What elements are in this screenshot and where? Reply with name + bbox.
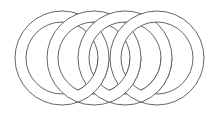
interlocking-rings-figure [0,0,211,116]
rings-drawing [0,0,211,116]
